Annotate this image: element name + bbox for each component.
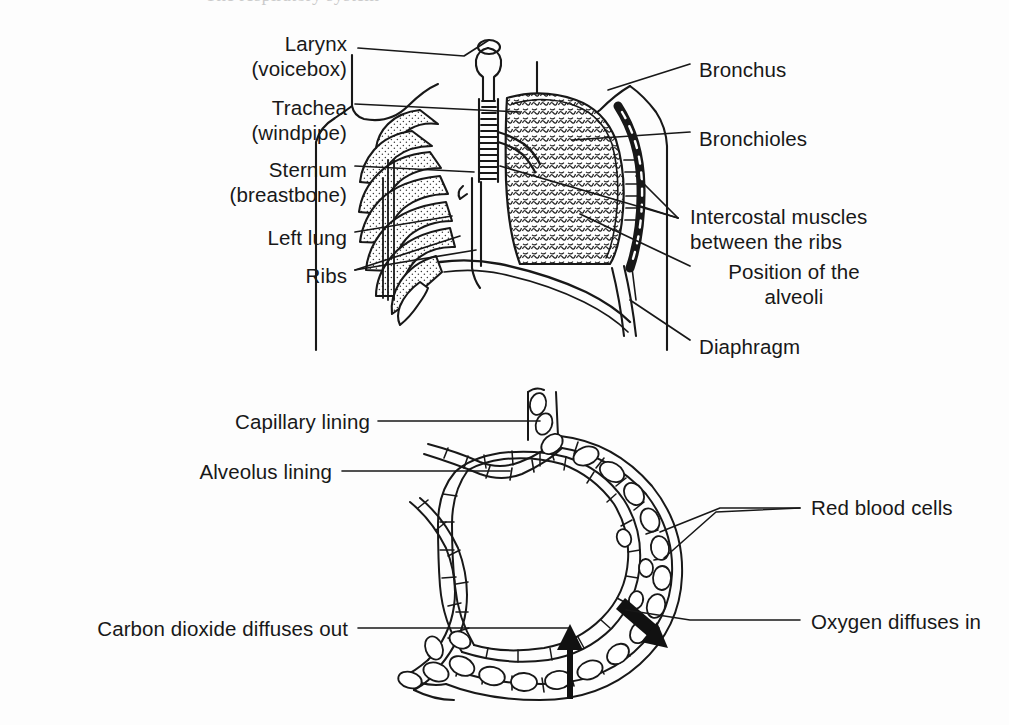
label-left-lung: Left lung [100,225,347,250]
label-larynx: Larynx (voicebox) [100,31,347,81]
alveolus-leaders [342,421,800,628]
respiratory-system-figure: The respiratory system [0,0,1009,725]
label-bronchus: Bronchus [699,57,786,82]
label-bronchioles: Bronchioles [699,126,807,151]
label-capillary-lining: Capillary lining [120,409,370,434]
thorax-artwork [316,40,690,350]
label-oxygen-diffuses-in: Oxygen diffuses in [811,609,981,634]
label-carbon-dioxide-diffuses-out: Carbon dioxide diffuses out [18,616,348,641]
alveolus-lining-wall [438,452,640,662]
label-diaphragm: Diaphragm [699,334,800,359]
label-ribs: Ribs [100,263,347,288]
diaphragm [440,260,636,336]
label-trachea: Trachea (windpipe) [100,95,347,145]
label-alveolus-lining: Alveolus lining [82,459,332,484]
label-position-of-alveoli: Position of the alveoli [699,259,889,309]
label-red-blood-cells: Red blood cells [811,495,953,520]
right-lung-section [498,93,642,268]
label-sternum: Sternum (breastbone) [100,157,347,207]
label-intercostal-muscles: Intercostal muscles between the ribs [690,204,867,254]
alveolus-artwork [342,388,800,700]
